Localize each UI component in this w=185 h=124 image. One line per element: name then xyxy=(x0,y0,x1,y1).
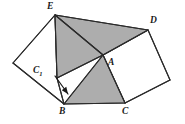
label-E: E xyxy=(47,2,53,12)
label-D: D xyxy=(150,16,157,26)
arrow-head-icon xyxy=(62,87,68,94)
label-A: A xyxy=(108,58,114,68)
label-A-text: A xyxy=(108,57,114,67)
label-C-text: C xyxy=(122,106,128,116)
label-B-text: B xyxy=(59,106,65,116)
geometry-canvas xyxy=(0,0,185,124)
label-C1-subscript: 1 xyxy=(39,70,42,77)
label-E-text: E xyxy=(47,1,53,11)
label-C1: C1 xyxy=(33,66,43,77)
label-D-text: D xyxy=(150,15,157,25)
geometry-figure: E D A C1 B C xyxy=(0,0,185,124)
label-B: B xyxy=(59,107,65,117)
label-C: C xyxy=(122,107,128,117)
